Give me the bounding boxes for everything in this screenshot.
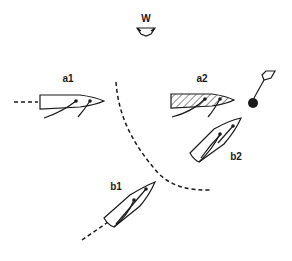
boat-b2-helm [218,132,222,136]
wind-indicator: W [137,13,155,36]
boat-b1-trail [82,222,108,240]
boat-a2-crew [218,97,222,101]
racing-rules-diagram: W a1 a2 b2 b1 [0,0,292,261]
boat-a1-crew [88,99,92,103]
wind-arrow-icon [137,28,155,36]
boat-b1-label: b1 [110,181,122,192]
boat-a1-label: a1 [62,73,74,84]
boat-a1-helm [74,99,78,103]
boat-b1: b1 [82,181,155,240]
mark-flag-icon [262,71,275,80]
boat-a2-label: a2 [196,73,208,84]
mark-pole [254,80,264,98]
boat-a2: a2 [171,73,234,117]
boat-b2-label: b2 [230,151,242,162]
mark-buoy-icon [248,98,258,108]
boat-a2-helm [203,97,207,101]
boat-b2: b2 [190,118,242,162]
mark [248,71,275,108]
boat-a1: a1 [14,73,104,118]
boat-b1-helm [132,198,136,202]
boat-a1-hull [40,95,104,109]
wind-label: W [141,13,151,24]
boat-b1-crew [144,187,148,191]
